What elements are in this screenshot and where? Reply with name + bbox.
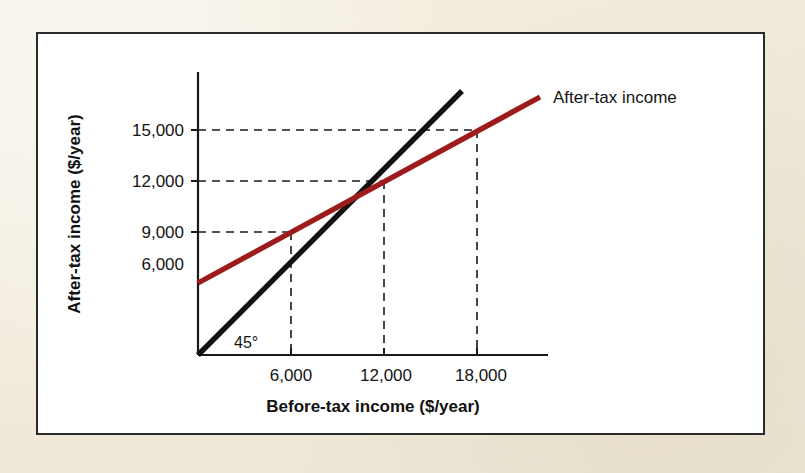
y-tick-label-15000: 15,000 <box>132 121 184 140</box>
x-tick-label-12000: 12,000 <box>360 366 412 385</box>
y-tick-labels-group: 15,000 12,000 9,000 6,000 <box>132 121 184 274</box>
y-tick-label-12000: 12,000 <box>132 172 184 191</box>
y-tick-label-9000: 9,000 <box>141 223 184 242</box>
figure-root: 15,000 12,000 9,000 6,000 6,000 12,000 1… <box>0 0 805 473</box>
angle-annotation-45-degree: 45° <box>234 334 258 351</box>
y-tick-label-6000: 6,000 <box>141 255 184 274</box>
guide-lines-group <box>198 130 477 355</box>
income-tax-line-chart: 15,000 12,000 9,000 6,000 6,000 12,000 1… <box>38 34 763 433</box>
x-tick-labels-group: 6,000 12,000 18,000 <box>270 366 507 385</box>
y-axis-title: After-tax income ($/year) <box>65 114 84 313</box>
chart-panel: 15,000 12,000 9,000 6,000 6,000 12,000 1… <box>36 32 765 435</box>
x-axis-title: Before-tax income ($/year) <box>266 397 480 416</box>
x-tick-label-18000: 18,000 <box>455 366 507 385</box>
x-tick-label-6000: 6,000 <box>270 366 313 385</box>
series-label-after-tax-income: After-tax income <box>553 88 677 107</box>
axes-group <box>198 72 548 355</box>
series-line-after-tax-income <box>198 97 540 283</box>
